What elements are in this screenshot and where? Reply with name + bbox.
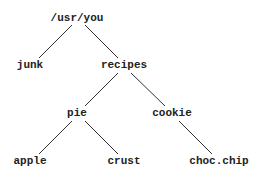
- edge-pie-apple: [39, 121, 72, 154]
- node-junk: junk: [17, 59, 44, 71]
- node-pie: pie: [67, 107, 87, 119]
- node-apple: apple: [13, 155, 46, 167]
- edge-cookie-chocchip: [179, 121, 212, 154]
- node-root-usr-you: /usr/you: [51, 12, 104, 24]
- edge-recipes-pie: [85, 73, 118, 106]
- node-recipes: recipes: [101, 59, 147, 71]
- tree-edges: [39, 25, 212, 154]
- edge-root-junk: [39, 25, 72, 58]
- node-cookie: cookie: [152, 107, 192, 119]
- node-choc-chip: choc.chip: [189, 155, 249, 167]
- edge-pie-crust: [85, 121, 118, 154]
- edge-root-recipes: [85, 25, 118, 58]
- node-crust: crust: [107, 155, 140, 167]
- edge-recipes-cookie: [131, 73, 165, 106]
- directory-tree-diagram: /usr/you junk recipes pie cookie apple c…: [0, 0, 263, 174]
